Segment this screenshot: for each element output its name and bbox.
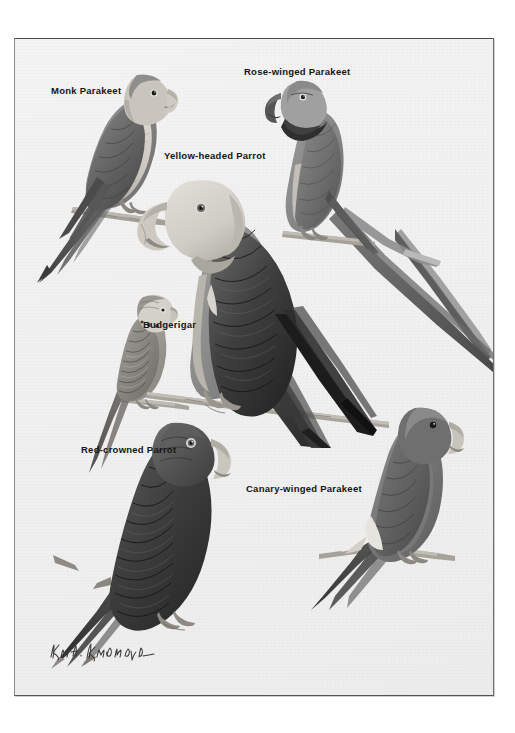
label-yellow-headed-parrot: Yellow-headed Parrot [164, 150, 266, 161]
label-red-crowned-parrot: Red-crowned Parrot [81, 444, 176, 455]
label-monk-parakeet: Monk Parakeet [51, 85, 121, 96]
bird-plate: Monk Parakeet Rose-winged Parakeet Yello… [14, 38, 494, 696]
label-rose-winged-parakeet: Rose-winged Parakeet [244, 66, 350, 77]
artist-signature [47, 639, 157, 665]
bird-red-crowned-parrot [45, 419, 245, 669]
label-canary-winged-parakeet: Canary-winged Parakeet [246, 483, 362, 494]
bird-yellow-headed-parrot [125, 164, 415, 449]
label-budgerigar: Budgerigar [143, 319, 196, 330]
illustration-page: Monk Parakeet Rose-winged Parakeet Yello… [0, 0, 515, 733]
